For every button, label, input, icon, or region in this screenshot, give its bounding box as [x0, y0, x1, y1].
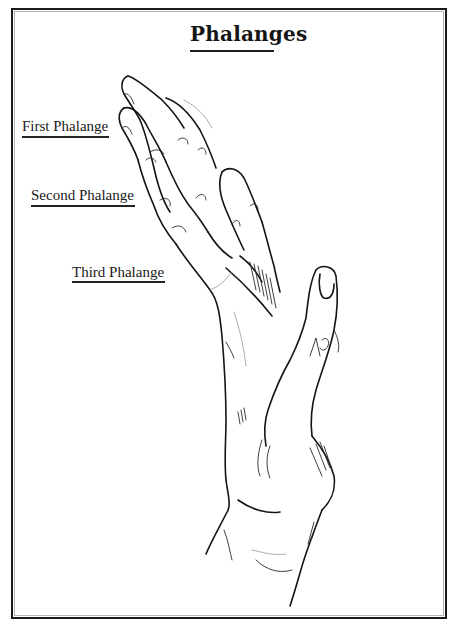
- middle-finger: [119, 108, 208, 244]
- palm: [176, 244, 246, 480]
- hand-illustration: [0, 0, 461, 627]
- knuckle-shading: [226, 256, 276, 316]
- diagram-page: Phalanges First Phalange Second Phalange…: [0, 0, 461, 627]
- thumb: [265, 267, 339, 446]
- little-finger: [220, 169, 280, 292]
- ring-finger: [166, 98, 232, 258]
